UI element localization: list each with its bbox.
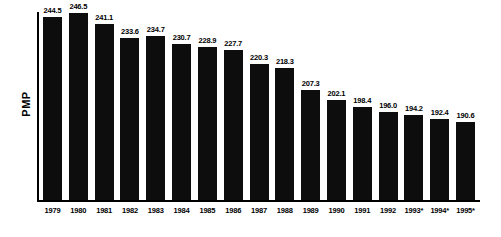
bar-chart: PMP 244.5246.5241.1233.6234.7230.7228.92… — [0, 0, 501, 237]
x-tick-label: 1994* — [427, 206, 452, 215]
x-tick-label: 1995* — [453, 206, 478, 215]
bar — [43, 17, 62, 200]
bar-value-label: 233.6 — [121, 27, 139, 36]
bar — [250, 64, 269, 200]
x-tick-label: 1980 — [66, 206, 91, 215]
bar — [430, 119, 449, 200]
bar-column: 241.1 — [92, 0, 117, 200]
bar-value-label: 198.4 — [353, 96, 371, 105]
x-tick-label: 1984 — [169, 206, 194, 215]
bar-column: 198.4 — [350, 0, 375, 200]
x-axis-tick-labels: 1979198019811982198319841985198619871988… — [40, 206, 478, 215]
bar-column: 202.1 — [324, 0, 349, 200]
bar-column: 196.0 — [376, 0, 401, 200]
x-tick-label: 1988 — [272, 206, 297, 215]
bar — [404, 115, 423, 200]
x-tick-label: 1986 — [221, 206, 246, 215]
bar-column: 220.3 — [247, 0, 272, 200]
bar — [172, 44, 191, 200]
bar-value-label: 220.3 — [250, 53, 268, 62]
bar-value-label: 244.5 — [44, 6, 62, 15]
bar-value-label: 228.9 — [198, 36, 216, 45]
bar-value-label: 207.3 — [302, 79, 320, 88]
x-tick-label: 1983 — [143, 206, 168, 215]
x-tick-label: 1979 — [40, 206, 65, 215]
bar — [224, 50, 243, 200]
x-tick-label: 1990 — [324, 206, 349, 215]
y-axis-line — [37, 12, 39, 202]
bar-value-label: 227.7 — [224, 39, 242, 48]
bar-value-label: 196.0 — [379, 101, 397, 110]
y-axis-label: PMP — [20, 84, 32, 124]
bar-value-label: 218.3 — [276, 57, 294, 66]
bar-value-label: 192.4 — [431, 108, 449, 117]
bar-value-label: 190.6 — [457, 111, 475, 120]
x-tick-label: 1991 — [350, 206, 375, 215]
bar-column: 228.9 — [195, 0, 220, 200]
x-axis-line — [37, 200, 480, 202]
bar-column: 192.4 — [427, 0, 452, 200]
bar-value-label: 230.7 — [173, 33, 191, 42]
bar-column: 244.5 — [40, 0, 65, 200]
bar-value-label: 241.1 — [95, 13, 113, 22]
bar — [275, 68, 294, 200]
x-tick-label: 1992 — [376, 206, 401, 215]
bar-column: 207.3 — [298, 0, 323, 200]
bar-value-label: 194.2 — [405, 104, 423, 113]
bar — [69, 13, 88, 200]
bar — [379, 112, 398, 200]
bar-column: 234.7 — [143, 0, 168, 200]
bar — [198, 47, 217, 200]
bar — [327, 100, 346, 200]
x-tick-label: 1987 — [247, 206, 272, 215]
bar — [146, 36, 165, 200]
bar-column: 233.6 — [117, 0, 142, 200]
bar-column: 218.3 — [272, 0, 297, 200]
bar-column: 230.7 — [169, 0, 194, 200]
bar — [95, 24, 114, 200]
bar-value-label: 234.7 — [147, 25, 165, 34]
bar-column: 190.6 — [453, 0, 478, 200]
bar-column: 194.2 — [401, 0, 426, 200]
x-tick-label: 1989 — [298, 206, 323, 215]
bar-column: 227.7 — [221, 0, 246, 200]
x-tick-label: 1982 — [117, 206, 142, 215]
bar — [301, 90, 320, 200]
bar — [353, 107, 372, 200]
bar — [456, 122, 475, 200]
x-tick-label: 1981 — [92, 206, 117, 215]
bars-area: 244.5246.5241.1233.6234.7230.7228.9227.7… — [40, 0, 478, 200]
x-tick-label: 1985 — [195, 206, 220, 215]
bar-value-label: 202.1 — [328, 89, 346, 98]
bar — [120, 38, 139, 200]
bar-value-label: 246.5 — [69, 2, 87, 11]
x-tick-label: 1993* — [401, 206, 426, 215]
bar-column: 246.5 — [66, 0, 91, 200]
